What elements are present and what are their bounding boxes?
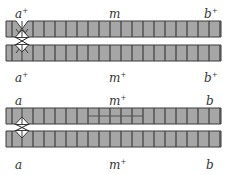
label-a-pair1-bottom: a+: [15, 69, 28, 84]
label-a-pair2-top: a: [15, 92, 22, 107]
label-m-pair2-bottom: m+: [109, 156, 126, 171]
chromosome-pair-1: [6, 21, 221, 61]
chromosome-diagram: [0, 0, 228, 175]
label-m-pair1-bottom: m+: [109, 69, 126, 84]
chromosome-pair-2: [6, 108, 221, 147]
chromatid-upper: [6, 108, 221, 124]
label-m-pair1-top: m: [109, 5, 120, 20]
label-a-pair1-top: a+: [15, 5, 28, 20]
label-a-pair2-bottom: a: [15, 156, 22, 171]
chromatid-lower: [6, 131, 221, 147]
chromatid-upper: [6, 21, 221, 37]
label-b-pair2-bottom: b: [206, 156, 214, 171]
label-m-pair2-top: m+: [109, 92, 126, 107]
label-b-pair1-bottom: b+: [204, 69, 218, 84]
label-b-pair2-top: b: [206, 92, 214, 107]
chromatid-lower: [6, 38, 221, 61]
label-b-pair1-top: b+: [204, 5, 218, 20]
